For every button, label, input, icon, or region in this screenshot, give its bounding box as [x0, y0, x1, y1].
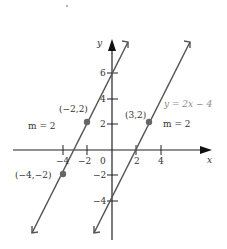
label-point-3-2: (3,2) — [125, 110, 146, 120]
tick-y-4: 4 — [100, 94, 106, 104]
tick-origin: 0 — [100, 156, 106, 166]
line-right — [94, 42, 190, 233]
y-axis-arrow-icon — [108, 39, 116, 51]
slope-label-left: m = 2 — [28, 121, 56, 131]
stray-dot — [66, 5, 68, 7]
tick-x-neg4: −4 — [56, 156, 70, 166]
tick-x-2: 2 — [134, 156, 140, 166]
equation-label: y = 2x − 4 — [163, 99, 212, 109]
point-neg2-2 — [84, 119, 90, 125]
x-axis-label: x — [207, 155, 212, 165]
line-left — [32, 42, 128, 233]
slope-label-right: m = 2 — [163, 119, 191, 129]
x-axis-arrow-icon — [200, 146, 212, 154]
label-point-neg2-2: (−2,2) — [59, 104, 88, 114]
tick-y-neg2: −2 — [93, 170, 106, 180]
tick-y-2: 2 — [100, 119, 106, 129]
label-point-neg4-neg2: (−4,−2) — [15, 170, 51, 180]
tick-y-6: 6 — [100, 68, 106, 78]
tick-x-neg2: −2 — [78, 156, 91, 166]
tick-x-4: 4 — [158, 156, 164, 166]
tick-y-neg4: −4 — [93, 196, 107, 206]
y-axis-label: y — [96, 38, 103, 48]
point-neg4-neg2 — [60, 171, 66, 177]
chart-canvas: y x −4 −2 0 2 4 6 4 2 −2 −4 (−2,2) (3,2)… — [0, 0, 227, 249]
point-3-2 — [146, 119, 152, 125]
